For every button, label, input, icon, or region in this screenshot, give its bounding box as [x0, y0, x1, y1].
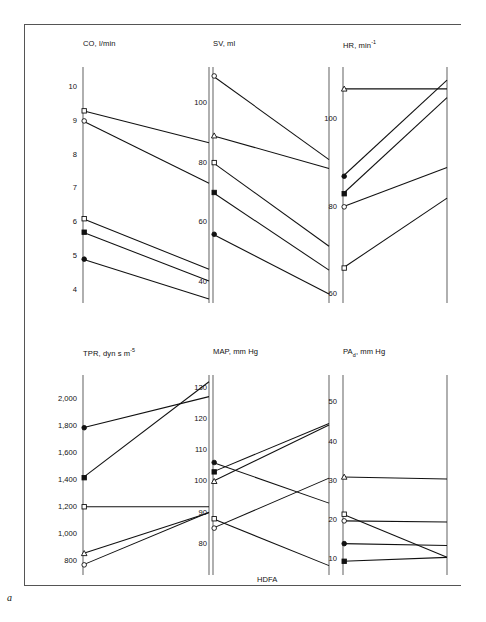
panel-tpr: TPR, dyn s m-52,0001,8001,6001,4001,2001… — [81, 361, 215, 587]
panel-hr: HR, min-11008060 — [341, 53, 453, 315]
tick-label-tpr-800: 800 — [47, 556, 77, 565]
data-marker-filled-circle — [342, 174, 347, 179]
tick-label-tpr-1800: 1,800 — [47, 421, 77, 430]
data-marker-filled-square — [82, 230, 86, 234]
panel-title-tpr: TPR, dyn s m-5 — [83, 347, 135, 358]
series-line-s2 — [83, 111, 209, 143]
series-line-s1 — [83, 121, 209, 183]
panel-title-map: MAP, mm Hg — [213, 347, 258, 356]
data-marker-open-square — [82, 109, 86, 113]
tick-label-co-9: 9 — [55, 116, 77, 125]
data-marker-open-circle — [82, 119, 87, 124]
tick-label-sv-100: 100 — [181, 98, 207, 107]
data-marker-filled-circle — [212, 460, 217, 465]
tick-label-co-4: 4 — [55, 285, 77, 294]
panel-title-pad: PAd, mm Hg — [343, 347, 385, 358]
series-line-s1 — [343, 521, 447, 522]
series-line-s3 — [83, 397, 209, 428]
tick-label-pad-50: 50 — [311, 397, 337, 406]
data-marker-filled-circle — [82, 257, 87, 262]
tick-label-map-130: 130 — [181, 383, 207, 392]
data-marker-triangle — [211, 133, 217, 138]
panel-map: MAP, mm Hg1301201101009080HDFA — [211, 361, 335, 587]
data-marker-filled-square — [342, 192, 346, 196]
panel-sv: SV, ml100806040 — [211, 53, 335, 315]
panel-pad: PAd, mm Hg5040302010 — [341, 361, 453, 587]
data-marker-filled-circle — [82, 425, 87, 430]
series-line-s3 — [83, 232, 209, 281]
tick-label-co-8: 8 — [55, 150, 77, 159]
tick-label-map-110: 110 — [181, 445, 207, 454]
series-line-s4 — [343, 557, 447, 561]
panel-title-hr: HR, min-1 — [343, 39, 376, 50]
tick-label-hr-80: 80 — [311, 202, 337, 211]
series-line-s4 — [213, 423, 329, 471]
tick-label-pad-30: 30 — [311, 476, 337, 485]
series-line-s4 — [343, 98, 447, 194]
data-marker-open-square-low — [82, 217, 86, 221]
series-line-s2 — [343, 198, 447, 268]
plot-area-hr — [341, 67, 453, 303]
series-line-s3 — [343, 80, 447, 176]
data-marker-open-circle — [342, 205, 347, 210]
data-marker-filled-square — [212, 470, 216, 474]
tick-label-hr-60: 60 — [311, 289, 337, 298]
tick-label-tpr-1200: 1,200 — [47, 502, 77, 511]
data-marker-open-square — [342, 266, 346, 270]
tick-label-tpr-1600: 1,600 — [47, 448, 77, 457]
data-marker-open-circle — [212, 74, 217, 79]
tick-label-tpr-1400: 1,400 — [47, 475, 77, 484]
data-marker-filled-square — [212, 190, 216, 194]
tick-label-pad-40: 40 — [311, 437, 337, 446]
tick-label-map-100: 100 — [181, 476, 207, 485]
tick-label-tpr-2000: 2,000 — [47, 394, 77, 403]
tick-label-pad-10: 10 — [311, 554, 337, 563]
tick-label-sv-40: 40 — [181, 277, 207, 286]
tick-label-co-5: 5 — [55, 251, 77, 260]
tick-label-co-10: 10 — [55, 82, 77, 91]
data-marker-filled-square — [342, 559, 346, 563]
data-marker-filled-circle — [342, 541, 347, 546]
plot-area-sv — [211, 67, 335, 303]
data-marker-open-square — [212, 517, 216, 521]
tick-label-co-6: 6 — [55, 217, 77, 226]
tick-label-pad-20: 20 — [311, 515, 337, 524]
panel-title-co: CO, l/min — [83, 39, 116, 48]
figure-frame: CO, l/min10987654SV, ml100806040HR, min-… — [24, 24, 461, 586]
tick-label-map-80: 80 — [181, 539, 207, 548]
panel-co: CO, l/min10987654 — [81, 53, 215, 315]
series-line-s5 — [213, 425, 329, 481]
series-line-s3 — [343, 544, 447, 546]
tick-label-sv-60: 60 — [181, 217, 207, 226]
series-line-s1 — [343, 168, 447, 207]
data-marker-triangle — [81, 551, 87, 556]
tick-label-sv-80: 80 — [181, 158, 207, 167]
data-marker-open-circle — [342, 519, 347, 524]
series-line-s3 — [213, 234, 329, 294]
tick-label-hr-100: 100 — [311, 114, 337, 123]
data-marker-open-square — [212, 160, 216, 164]
plot-area-pad — [341, 375, 453, 575]
tick-label-map-120: 120 — [181, 414, 207, 423]
data-marker-open-circle — [212, 526, 217, 531]
series-line-s5 — [213, 136, 329, 169]
data-marker-filled-square — [82, 476, 86, 480]
data-marker-open-square — [82, 505, 86, 509]
series-line-s5 — [343, 477, 447, 479]
x-axis-caption-map: HDFA — [257, 575, 277, 584]
tick-label-tpr-1000: 1,000 — [47, 529, 77, 538]
tick-label-map-90: 90 — [181, 508, 207, 517]
data-marker-open-square — [342, 512, 346, 516]
series-line-s4 — [83, 382, 209, 478]
panel-title-sv: SV, ml — [213, 39, 235, 48]
tick-label-co-7: 7 — [55, 183, 77, 192]
data-marker-filled-circle — [212, 232, 217, 237]
figure-letter: a — [7, 592, 12, 603]
data-marker-open-circle — [82, 563, 87, 568]
